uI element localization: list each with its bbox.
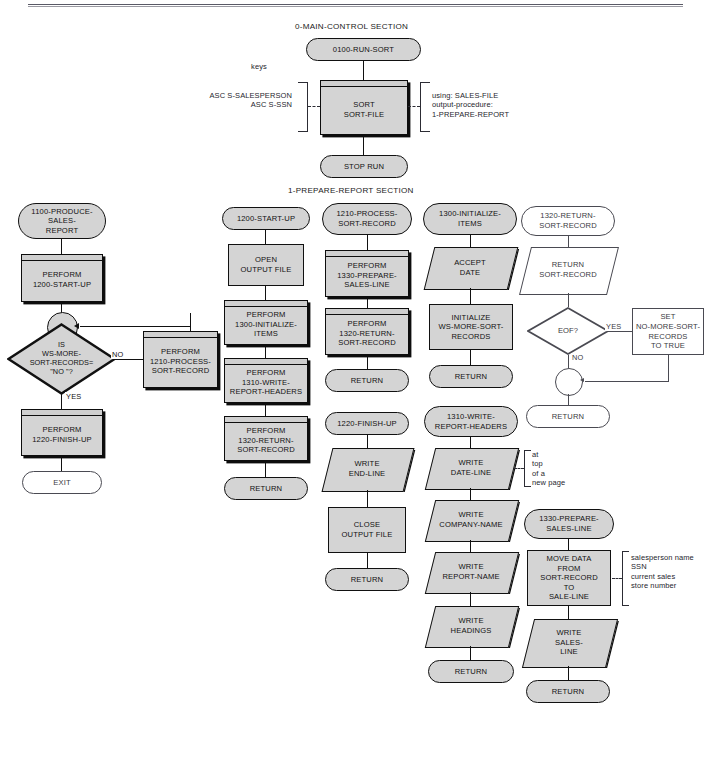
- node-c5b-return: RETURN: [526, 680, 610, 703]
- node-label: PERFORM 1330-PREPARE- SALES-LINE: [337, 261, 397, 290]
- edge-eof-no: [568, 355, 569, 368]
- connector-sort-to-stop: [363, 137, 364, 155]
- node-label: CLOSE OUTPUT FILE: [342, 520, 393, 539]
- node-c3t-perform-1320-return-sort-record: PERFORM 1320-RETURN- SORT-RECORD: [325, 308, 409, 355]
- node-close-output-file: CLOSE OUTPUT FILE: [328, 507, 406, 553]
- node-0100-run-sort: 0100-RUN-SORT: [306, 38, 421, 61]
- node-label: PERFORM 1210-PROCESS- SORT-RECORD: [150, 347, 211, 376]
- edge-loopback-arrowhead: [74, 323, 79, 329]
- node-label: RETURN: [552, 412, 585, 422]
- edge-set-left: [585, 381, 669, 382]
- node-c3t-return: RETURN: [325, 369, 409, 392]
- annotation-bracket-date-note: [524, 450, 531, 487]
- node-top-band: [321, 81, 407, 87]
- annotation-dash-keys: [308, 106, 320, 107]
- node-open-output-file: OPEN OUTPUT FILE: [228, 244, 304, 286]
- node-write-report-name: [425, 552, 519, 594]
- node-label: 1100-PRODUCE- SALES- REPORT: [31, 207, 92, 236]
- connector-c4b-c: [470, 540, 471, 552]
- node-1210-process-sort-record: 1210-PROCESS- SORT-RECORD: [322, 203, 412, 235]
- connector-c3b-b: [367, 490, 368, 507]
- node-1200-start-up: 1200-START-UP: [222, 207, 310, 230]
- node-c4t-return: RETURN: [429, 365, 513, 388]
- connector-c5b-a: [568, 539, 569, 550]
- node-perform-1200-start-up: PERFORM 1200-START-UP: [21, 254, 103, 302]
- annotation-date-note: at top of a new page: [532, 450, 592, 488]
- node-move-data-sort-record-to-sale-line: MOVE DATA FROM SORT-RECORD TO SALE-LINE: [527, 550, 611, 606]
- node-label: PERFORM 1200-START-UP: [33, 270, 91, 289]
- connector-c5t-c: [568, 394, 569, 405]
- connector-c4b-d: [470, 592, 471, 606]
- node-perform-1210-process-sort-record: PERFORM 1210-PROCESS- SORT-RECORD: [143, 331, 218, 388]
- decision-eof: EOF?: [527, 307, 609, 355]
- node-top-band: [225, 301, 307, 307]
- node-label: 1320-RETURN- SORT-RECORD: [539, 211, 597, 230]
- decision-label: IS WS-MORE- SORT-RECORDS= "NO "?: [7, 323, 116, 395]
- node-label: STOP RUN: [344, 162, 384, 172]
- node-label: PERFORM 1310-WRITE- REPORT-HEADERS: [230, 368, 302, 397]
- node-label: SET NO-MORE-SORT- RECORDS TO TRUE: [636, 312, 700, 350]
- node-1330-prepare-sales-line: 1330-PREPARE- SALES-LINE: [524, 509, 614, 539]
- node-perform-1220-finish-up: PERFORM 1220-FINISH-UP: [21, 409, 103, 456]
- connector-c2-c: [265, 347, 266, 358]
- node-set-no-more-sort-records-true: SET NO-MORE-SORT- RECORDS TO TRUE: [632, 308, 704, 355]
- node-label: PERFORM 1320-RETURN- SORT-RECORD: [237, 426, 295, 455]
- node-write-headings: [425, 606, 519, 648]
- connector-c4t-c: [470, 350, 471, 365]
- node-top-band: [144, 332, 217, 338]
- node-label: 1200-START-UP: [237, 214, 295, 224]
- page-header-rule-secondary: [28, 6, 683, 7]
- decision-label: EOF?: [527, 307, 609, 355]
- node-stop-run: STOP RUN: [320, 155, 408, 178]
- page-header-rule: [28, 4, 683, 5]
- annotation-keys-text: ASC S-SALESPERSON ASC S-SSN: [196, 91, 292, 110]
- connector-c2-a: [265, 230, 266, 244]
- connector-c3t-b: [367, 299, 368, 308]
- node-write-date-line: [425, 448, 519, 490]
- node-label: PERFORM 1320-RETURN- SORT-RECORD: [338, 319, 396, 348]
- flowchart-page: 0-MAIN-CONTROL SECTION 0100-RUN-SORT SOR…: [0, 0, 709, 760]
- node-1100-produce-sales-report: 1100-PRODUCE- SALES- REPORT: [18, 203, 106, 239]
- node-accept-date: [424, 247, 519, 290]
- node-1320-return-sort-record: 1320-RETURN- SORT-RECORD: [521, 206, 615, 236]
- annotation-dash-using: [408, 106, 420, 107]
- connector-c2-d: [265, 405, 266, 416]
- edge-yes-to-finish: [61, 394, 62, 409]
- node-perform-1320-return-sort-record: PERFORM 1320-RETURN- SORT-RECORD: [224, 416, 308, 461]
- connector-c1-a: [61, 239, 62, 254]
- node-label: 1210-PROCESS- SORT-RECORD: [336, 209, 397, 228]
- annotation-bracket-keys: [298, 82, 308, 132]
- node-c2-return: RETURN: [224, 477, 308, 500]
- annotation-using-text: using: SALES-FILE output-procedure: 1-PR…: [432, 91, 552, 119]
- connector-c4t-b: [470, 288, 471, 304]
- edge-eof-yes: [608, 331, 632, 332]
- edge-loopback-horizontal: [80, 326, 191, 327]
- node-perform-1330-prepare-sales-line: PERFORM 1330-PREPARE- SALES-LINE: [325, 250, 409, 297]
- node-label: RETURN: [455, 372, 488, 382]
- connector-c5b-b: [568, 606, 569, 619]
- node-top-band: [326, 309, 408, 315]
- annotation-bracket-move-note: [622, 551, 629, 606]
- section-title-prepare-report: 1-PREPARE-REPORT SECTION: [288, 186, 414, 195]
- node-label: PERFORM 1300-INITIALIZE- ITEMS: [235, 310, 297, 339]
- node-top-band: [225, 359, 307, 365]
- node-perform-1300-initialize-items: PERFORM 1300-INITIALIZE- ITEMS: [224, 300, 308, 345]
- edge-set-down: [668, 355, 669, 381]
- node-label: RETURN: [351, 575, 384, 585]
- connector-c3b-c: [367, 553, 368, 568]
- connector-c5t-a: [568, 236, 569, 247]
- node-c3b-return: RETURN: [325, 568, 409, 591]
- connector-c4b-b: [470, 488, 471, 500]
- connector-c2-b: [265, 286, 266, 300]
- connector-c4b-e: [470, 646, 471, 660]
- node-c5t-return: RETURN: [526, 405, 610, 428]
- connector-c3b-a: [367, 435, 368, 448]
- connector-c1-d: [61, 458, 62, 471]
- node-label: 1220-FINISH-UP: [337, 419, 397, 429]
- node-initialize-ws-more-sort-records: INITIALIZE WS-MORE-SORT- RECORDS: [429, 304, 513, 350]
- node-label: RETURN: [455, 667, 488, 677]
- node-label: 1300-INITIALIZE- ITEMS: [439, 209, 501, 228]
- node-top-band: [22, 255, 102, 261]
- edge-set-arrowhead: [580, 378, 584, 382]
- node-sort-sort-file: SORT SORT-FILE: [320, 80, 408, 135]
